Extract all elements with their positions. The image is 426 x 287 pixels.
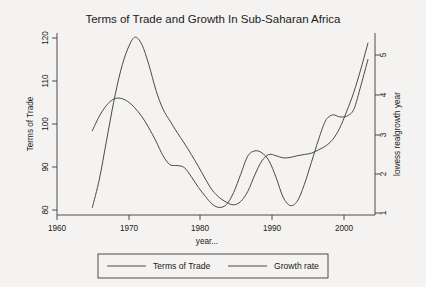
series-line-terms-of-trade: [92, 37, 368, 207]
left-axis-title: Terms of Trade: [26, 96, 35, 151]
left-tick-label: 80: [41, 205, 50, 215]
right-tick-label: 3: [379, 132, 388, 137]
right-tick-label: 1: [379, 210, 388, 215]
right-axis-title: lowess realgrowth year: [393, 92, 402, 176]
x-tick-label: 1960: [48, 224, 67, 233]
x-axis-title: year...: [196, 237, 218, 246]
right-tick-label: 2: [379, 171, 388, 176]
x-axis-ticks: 1960 1970 1980 1990 2000: [48, 215, 354, 233]
left-tick-label: 90: [41, 162, 50, 172]
left-tick-label: 120: [41, 31, 50, 45]
x-tick-label: 1970: [120, 224, 139, 233]
x-tick-label: 1990: [263, 224, 282, 233]
chart-legend: Terms of Trade Growth rate: [98, 254, 328, 278]
x-tick-label: 2000: [335, 224, 354, 233]
right-tick-label: 5: [379, 52, 388, 57]
left-axis-ticks: 120 110 100 90 80: [41, 31, 57, 215]
right-tick-label: 4: [379, 92, 388, 97]
left-tick-label: 100: [41, 117, 50, 131]
series-line-growth-rate: [92, 60, 368, 208]
left-tick-label: 110: [41, 74, 50, 87]
right-axis-ticks: 5 4 3 2 1: [375, 52, 388, 215]
legend-label-growth-rate: Growth rate: [274, 261, 319, 271]
chart-title: Terms of Trade and Growth In Sub-Saharan…: [85, 13, 341, 25]
plot-frame: [57, 33, 375, 215]
x-tick-label: 1980: [191, 224, 210, 233]
chart-figure: Terms of Trade and Growth In Sub-Saharan…: [0, 0, 426, 287]
legend-label-terms-of-trade: Terms of Trade: [153, 261, 211, 271]
terms-of-trade-growth-line-chart: Terms of Trade and Growth In Sub-Saharan…: [0, 0, 426, 287]
